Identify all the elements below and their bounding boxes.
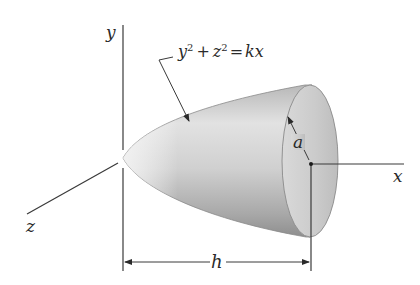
eq-exp-1: 2 (187, 42, 193, 53)
surface-equation: y2+z2=kx (177, 42, 264, 61)
paraboloid-tip-highlight (123, 85, 306, 237)
paraboloid-diagram: a h y2+z2=kx y x z (0, 0, 420, 285)
eq-rhs: kx (245, 42, 264, 61)
y-axis-label: y (105, 22, 116, 42)
eq-equals: = (230, 42, 243, 61)
length-label: h (211, 251, 223, 272)
center-point (309, 162, 313, 166)
radius-label: a (293, 132, 303, 152)
z-axis (27, 163, 118, 214)
eq-exp-2: 2 (221, 42, 227, 53)
base-face (282, 85, 338, 237)
equation-leader (159, 57, 189, 121)
x-axis-label: x (393, 166, 403, 186)
z-axis-label: z (25, 216, 36, 236)
eq-plus: + (196, 42, 209, 61)
diagram-svg: a h y2+z2=kx y x z (0, 0, 420, 285)
